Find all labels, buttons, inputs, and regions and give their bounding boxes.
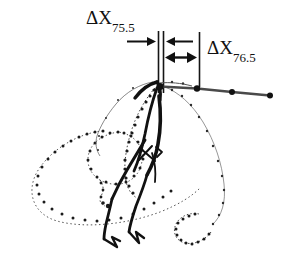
measure-label-left-subscript: 75.5 <box>112 20 135 35</box>
measure-label-left: ΔX75.5 <box>86 8 135 31</box>
arrow-double-headed-icon <box>165 52 197 63</box>
measurement-arrows-group <box>127 37 197 63</box>
right-thin-dotted-arc <box>165 87 225 225</box>
outer-left-dotted-loop <box>32 130 200 225</box>
measure-label-left-symbol: ΔX <box>86 7 112 28</box>
measure-label-right-subscript: 76.5 <box>233 50 256 65</box>
arrow-left-inward-icon <box>127 37 156 46</box>
thick-marker-bar <box>156 83 273 99</box>
measure-label-right: ΔX76.5 <box>207 38 256 61</box>
right-hook-dotted-trace <box>174 213 211 246</box>
apex-left-thin-arc <box>96 82 153 156</box>
lower-left-dotted-connector <box>100 180 111 208</box>
arrow-right-inward-icon <box>166 37 193 46</box>
thick-solid-limb-outline <box>104 82 162 247</box>
measure-label-right-symbol: ΔX <box>207 37 233 58</box>
kinematics-figure: ΔX75.5 ΔX76.5 <box>0 0 287 260</box>
